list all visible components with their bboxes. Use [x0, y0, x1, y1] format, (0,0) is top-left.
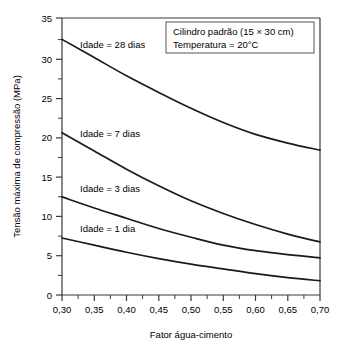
annotation-box: Cilindro padrão (15 × 30 cm) Temperatura… [166, 22, 314, 53]
y-tick-label-30: 30 [41, 54, 52, 65]
x-axis-ticks [62, 295, 320, 301]
x-tick-label-040: 0,40 [117, 304, 136, 315]
x-tick-label-070: 0,70 [311, 304, 330, 315]
curve-label-3-dias: Idade = 3 dias [80, 183, 140, 194]
compressive-strength-chart: 0 5 10 15 20 25 30 35 [0, 0, 349, 352]
x-axis-title: Fator água-cimento [150, 329, 232, 340]
x-tick-label-035: 0,35 [85, 304, 104, 315]
curve-label-28-dias: Idade = 28 dias [80, 39, 145, 50]
x-tick-label-030: 0,30 [53, 304, 72, 315]
x-tick-label-055: 0,55 [214, 304, 233, 315]
y-tick-label-5: 5 [47, 250, 52, 261]
curve-idade-1-dia [62, 238, 320, 281]
x-tick-label-065: 0,65 [279, 304, 298, 315]
y-tick-labels: 0 5 10 15 20 25 30 35 [41, 13, 52, 301]
y-tick-label-10: 10 [41, 211, 52, 222]
x-tick-label-045: 0,45 [150, 304, 169, 315]
y-tick-label-35: 35 [41, 13, 52, 24]
chart-figure: 0 5 10 15 20 25 30 35 [0, 0, 349, 352]
annotation-line-cylinder: Cilindro padrão (15 × 30 cm) [173, 26, 294, 37]
annotation-line-temperature: Temperatura = 20°C [173, 39, 259, 50]
y-tick-label-20: 20 [41, 132, 52, 143]
y-tick-label-25: 25 [41, 93, 52, 104]
curve-label-1-dia: Idade = 1 dia [80, 223, 136, 234]
data-curves [62, 39, 320, 280]
y-tick-label-15: 15 [41, 172, 52, 183]
y-axis-title: Tensão máxima de compressão (MPa) [11, 75, 22, 238]
x-tick-label-050: 0,50 [182, 304, 201, 315]
x-tick-labels: 0,30 0,35 0,40 0,45 0,50 0,55 0,60 0,65 … [53, 304, 330, 315]
curve-label-7-dias: Idade = 7 dias [80, 128, 140, 139]
y-tick-label-0: 0 [47, 290, 52, 301]
x-tick-label-060: 0,60 [246, 304, 265, 315]
y-axis-ticks [56, 18, 62, 295]
